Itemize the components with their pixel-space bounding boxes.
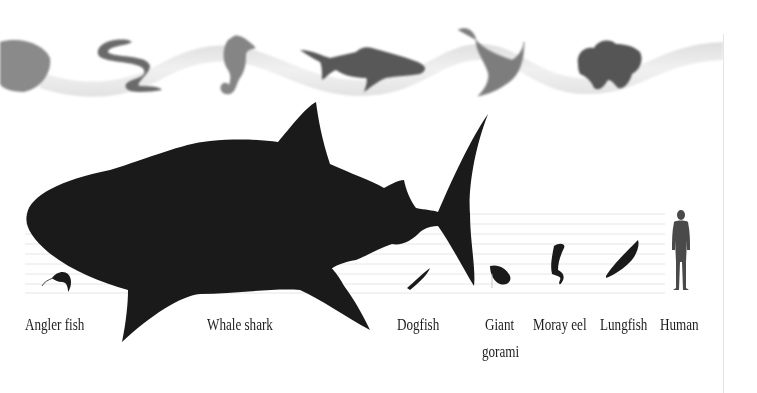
manta-ray-icon — [458, 28, 524, 96]
label-giant-gorami-line2: gorami — [482, 342, 519, 361]
size-comparison-figure: Angler fish Whale shark Dogfish Giant go… — [0, 0, 757, 393]
lungfish-icon — [606, 240, 639, 278]
human-icon — [672, 210, 690, 290]
scale-comparison — [0, 90, 757, 350]
label-dogfish: Dogfish — [397, 315, 439, 334]
angler-fish-icon — [42, 272, 71, 292]
giant-gorami-icon — [490, 265, 510, 288]
label-angler-fish: Angler fish — [25, 315, 84, 334]
label-whale-shark: Whale shark — [207, 315, 273, 334]
dogfish-icon — [407, 268, 430, 290]
whale-shark-icon — [26, 102, 488, 342]
label-moray-eel: Moray eel — [533, 315, 587, 334]
label-lungfish: Lungfish — [600, 315, 647, 334]
label-giant-gorami-line1: Giant — [485, 315, 514, 334]
label-human: Human — [660, 315, 699, 334]
